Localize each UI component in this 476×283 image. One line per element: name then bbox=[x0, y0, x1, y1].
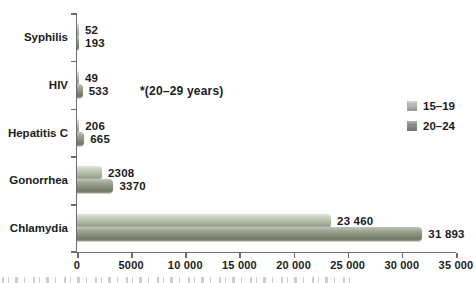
bar-20–24-hiv bbox=[77, 84, 83, 98]
x-axis-tick-label: 30 000 bbox=[384, 259, 419, 271]
x-axis-tick bbox=[185, 253, 187, 258]
value-label: 665 bbox=[90, 132, 110, 146]
y-axis-tick bbox=[71, 13, 77, 15]
x-axis-tick-label: 10 000 bbox=[168, 259, 203, 271]
x-axis-tick bbox=[294, 253, 296, 258]
legend-item: 20–24 bbox=[407, 120, 455, 132]
value-label: 206 bbox=[85, 119, 105, 133]
y-axis-tick bbox=[71, 156, 77, 158]
x-axis-tick-label: 20 000 bbox=[276, 259, 311, 271]
legend-label: 20–24 bbox=[423, 120, 455, 132]
legend-item: 15–19 bbox=[407, 100, 455, 112]
y-axis-tick bbox=[71, 61, 77, 63]
x-axis-tick-label: 25 000 bbox=[330, 259, 365, 271]
value-label: 31 893 bbox=[428, 227, 464, 241]
x-axis-tick bbox=[348, 253, 350, 258]
plot-area: 52193495332066652308337023 46031 8930500… bbox=[76, 13, 456, 253]
x-axis-tick-label: 35 000 bbox=[439, 259, 474, 271]
x-axis-tick-label: 15 000 bbox=[222, 259, 257, 271]
bar-15–19-gonorrhea bbox=[77, 166, 102, 180]
bar-15–19-syphilis bbox=[77, 23, 79, 37]
annotation-note: *(20–29 years) bbox=[140, 84, 224, 98]
value-label: 52 bbox=[85, 23, 98, 37]
legend-swatch bbox=[407, 121, 417, 131]
value-label: 533 bbox=[89, 84, 109, 98]
category-label: HIV bbox=[0, 78, 68, 92]
category-label: Hepatitis C bbox=[0, 126, 68, 140]
bar-20–24-hepatitis-c bbox=[77, 132, 84, 146]
value-label: 3370 bbox=[119, 179, 145, 193]
figure-root: 52193495332066652308337023 46031 8930500… bbox=[0, 0, 476, 283]
x-axis-tick bbox=[239, 253, 241, 258]
value-label: 49 bbox=[85, 71, 98, 85]
x-axis-tick-label: 5000 bbox=[119, 259, 144, 271]
category-label: Chlamydia bbox=[0, 221, 68, 235]
bar-20–24-syphilis bbox=[77, 36, 79, 50]
value-label: 193 bbox=[85, 36, 105, 50]
y-axis-tick bbox=[71, 204, 77, 206]
y-axis-tick bbox=[71, 109, 77, 111]
cropped-caption-strip bbox=[2, 277, 350, 283]
x-axis-tick bbox=[402, 253, 404, 258]
value-label: 23 460 bbox=[337, 214, 373, 228]
value-label: 2308 bbox=[108, 166, 134, 180]
x-axis-tick bbox=[456, 253, 458, 258]
x-axis-tick bbox=[77, 253, 79, 258]
legend: 15–1920–24 bbox=[407, 100, 455, 140]
x-axis-tick-label: 0 bbox=[74, 259, 80, 271]
legend-label: 15–19 bbox=[423, 100, 455, 112]
bar-15–19-hiv bbox=[77, 71, 79, 85]
bar-15–19-chlamydia bbox=[77, 214, 331, 228]
legend-swatch bbox=[407, 101, 417, 111]
bar-20–24-chlamydia bbox=[77, 227, 422, 241]
category-label: Gonorrhea bbox=[0, 173, 68, 187]
x-axis-tick bbox=[131, 253, 133, 258]
bar-20–24-gonorrhea bbox=[77, 179, 113, 193]
category-label: Syphilis bbox=[0, 30, 68, 44]
bar-15–19-hepatitis-c bbox=[77, 119, 79, 133]
